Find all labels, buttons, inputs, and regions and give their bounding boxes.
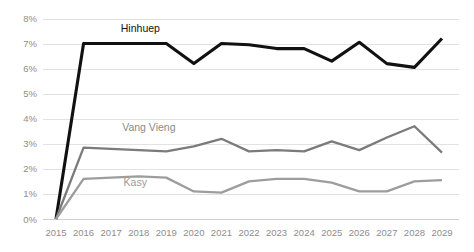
x-axis-tick-label: 2029 — [431, 227, 452, 238]
x-axis-tick-label: 2016 — [73, 227, 94, 238]
x-axis-tick-label: 2017 — [101, 227, 122, 238]
y-axis-tick-label: 0% — [23, 214, 37, 225]
series-label-hinhuep: Hinhuep — [121, 22, 160, 34]
x-axis-tick-label: 2018 — [128, 227, 149, 238]
x-axis-tick-label: 2019 — [156, 227, 177, 238]
y-axis-tick-label: 5% — [23, 88, 37, 99]
y-axis-tick-label: 6% — [23, 63, 37, 74]
series-inline-labels: HinhuepVang ViengKasy — [121, 22, 176, 188]
series-line-kasy — [56, 176, 442, 219]
x-axis-tick-label: 2025 — [321, 227, 342, 238]
chart-canvas: 0%1%2%3%4%5%6%7%8% 201520162017201820192… — [0, 0, 474, 252]
x-axis-tick-label: 2027 — [376, 227, 397, 238]
x-axis-tick-label: 2028 — [404, 227, 425, 238]
gridlines — [43, 20, 459, 220]
y-axis-tick-label: 8% — [23, 13, 37, 24]
x-axis-tick-label: 2022 — [238, 227, 259, 238]
data-series-lines — [56, 39, 442, 219]
x-axis-tick-label: 2021 — [211, 227, 232, 238]
y-axis-tick-label: 1% — [23, 188, 37, 199]
series-label-kasy: Kasy — [124, 176, 148, 188]
x-axis-tick-label: 2023 — [266, 227, 287, 238]
series-label-vang-vieng: Vang Vieng — [122, 121, 175, 133]
x-axis-tick-label: 2015 — [45, 227, 66, 238]
y-axis-tick-label: 3% — [23, 138, 37, 149]
x-axis-tick-label: 2024 — [294, 227, 315, 238]
y-axis-tick-label: 7% — [23, 38, 37, 49]
x-axis-tick-label: 2020 — [183, 227, 204, 238]
x-axis-tick-labels: 2015201620172018201920202021202220232024… — [45, 227, 452, 238]
line-chart-figure: 0%1%2%3%4%5%6%7%8% 201520162017201820192… — [0, 0, 474, 252]
x-axis-tick-label: 2026 — [349, 227, 370, 238]
y-axis-tick-label: 4% — [23, 113, 37, 124]
y-axis-tick-labels: 0%1%2%3%4%5%6%7%8% — [23, 13, 37, 225]
y-axis-tick-label: 2% — [23, 163, 37, 174]
series-line-vang-vieng — [56, 126, 442, 219]
